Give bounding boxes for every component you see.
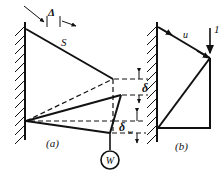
label-delta-load-deflection-subscript: w bbox=[128, 128, 133, 136]
diagram-canvas: Δ S δ δ w W (a) bbox=[0, 0, 221, 176]
panel-a: Δ S δ δ w W (a) bbox=[15, 6, 148, 169]
label-unit-load: 1 bbox=[214, 23, 220, 35]
wall-hatching-b bbox=[147, 26, 157, 144]
caption-panel-b: (b) bbox=[175, 140, 188, 153]
label-virtual-force-u: u bbox=[183, 29, 188, 40]
label-delta-vertical-deflection: δ bbox=[142, 81, 148, 95]
label-delta-horizontal-displacement: Δ bbox=[47, 6, 55, 18]
label-delta-load-deflection: δ bbox=[119, 120, 125, 134]
top-chord-a bbox=[26, 29, 113, 79]
figure-root: Δ S δ δ w W (a) bbox=[0, 0, 221, 176]
diagonal-strut-a bbox=[26, 95, 121, 121]
panel-b: u 1 (b) bbox=[147, 22, 220, 153]
label-member-force-s: S bbox=[61, 36, 67, 48]
caption-panel-a: (a) bbox=[46, 137, 59, 150]
diagonal-strut-b bbox=[158, 58, 210, 128]
wall-hatching-a bbox=[15, 26, 25, 144]
bottom-chord-a bbox=[26, 121, 110, 133]
